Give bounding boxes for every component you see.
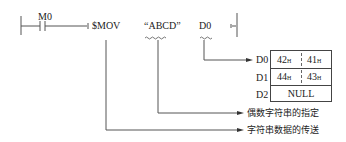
register-grid: 42H 41H 44H 43H NULL: [270, 50, 332, 102]
d0-low-byte: 41H: [307, 55, 321, 66]
d0-high-byte: 42H: [277, 55, 291, 66]
d2-null-value: NULL: [271, 89, 331, 99]
dest-operand: D0: [199, 21, 211, 31]
register-label-d1: D1: [256, 73, 268, 83]
annotation-even-string: 偶数字符串的指定: [247, 108, 319, 118]
instruction-smov: $MOV: [92, 21, 120, 31]
register-label-d2: D2: [256, 90, 268, 100]
source-operand: “ABCD”: [144, 21, 181, 31]
d1-high-byte: 44H: [277, 72, 291, 83]
contact-label-m0: M0: [38, 12, 52, 22]
d1-low-byte: 43H: [307, 72, 321, 83]
annotation-string-transfer: 字符串数据的传送: [247, 125, 319, 135]
register-label-d0: D0: [256, 55, 268, 65]
